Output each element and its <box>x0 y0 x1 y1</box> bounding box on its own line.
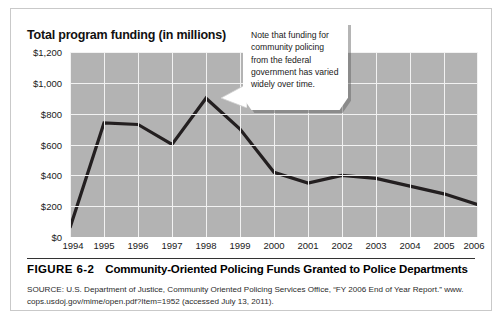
y-axis-tick-label: $200 <box>41 201 62 212</box>
y-axis-labels: $0$200$400$600$800$1,000$1,200 <box>0 52 66 237</box>
figure-caption: FIGURE 6-2Community-Oriented Policing Fu… <box>27 263 479 275</box>
x-axis-tick-label: 1996 <box>127 240 148 251</box>
source-note: SOURCE: U.S. Department of Justice, Comm… <box>27 284 479 307</box>
gridline-vertical <box>240 52 241 237</box>
x-axis-tick-label: 1999 <box>229 240 250 251</box>
x-axis-tick-label: 2005 <box>433 240 454 251</box>
gridline-vertical <box>206 52 207 237</box>
callout-box: Note that funding for community policing… <box>243 22 348 110</box>
callout-annotation: Note that funding for community policing… <box>243 22 348 110</box>
x-axis-tick-label: 1997 <box>161 240 182 251</box>
y-axis-tick-label: $800 <box>41 108 62 119</box>
caption-divider <box>27 258 475 259</box>
chart-title: Total program funding (in millions) <box>27 28 226 42</box>
x-axis-tick-label: 1998 <box>195 240 216 251</box>
gridline-vertical <box>410 52 411 237</box>
figure-container: Total program funding (in millions) $0$2… <box>0 0 502 320</box>
gridline-vertical <box>138 52 139 237</box>
x-axis-labels: 1994199519961997199819992000200120022003… <box>70 240 478 256</box>
y-axis-tick-label: $400 <box>41 170 62 181</box>
y-axis-tick-label: $1,200 <box>33 47 62 58</box>
x-axis-tick-label: 1995 <box>93 240 114 251</box>
x-axis-tick-label: 2004 <box>399 240 420 251</box>
gridline-vertical <box>172 52 173 237</box>
gridline-vertical <box>477 52 478 237</box>
x-axis-tick-label: 2002 <box>331 240 352 251</box>
x-axis-tick-label: 2003 <box>365 240 386 251</box>
callout-text: Note that funding for community policing… <box>251 29 341 90</box>
x-axis-tick-label: 2000 <box>263 240 284 251</box>
figure-caption-text: Community-Oriented Policing Funds Grante… <box>105 263 467 275</box>
gridline-vertical <box>376 52 377 237</box>
source-line-1: SOURCE: U.S. Department of Justice, Comm… <box>27 285 464 294</box>
y-axis-tick-label: $600 <box>41 139 62 150</box>
source-line-2: cops.usdoj.gov/mime/open.pdf?Item=1952 (… <box>27 297 274 306</box>
x-axis-tick-label: 1994 <box>62 240 83 251</box>
y-axis-tick-label: $1,000 <box>33 77 62 88</box>
gridline-vertical <box>444 52 445 237</box>
figure-number: FIGURE 6-2 <box>27 263 94 275</box>
x-axis-tick-label: 2006 <box>463 240 484 251</box>
gridline-vertical <box>70 52 71 237</box>
gridline-vertical <box>104 52 105 237</box>
x-axis-tick-label: 2001 <box>297 240 318 251</box>
y-axis-tick-label: $0 <box>51 232 62 243</box>
